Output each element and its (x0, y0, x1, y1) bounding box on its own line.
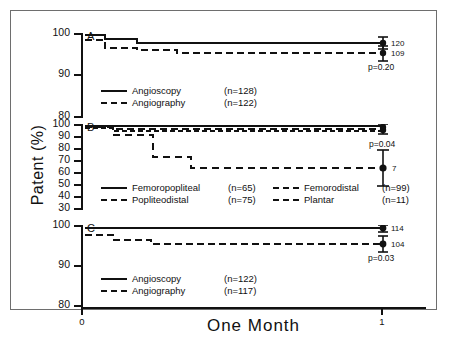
dashed-line-key-icon (101, 286, 127, 296)
panel-b-ytick-100: 100 (74, 124, 83, 126)
panel-c-ytick-label-100: 100 (52, 218, 70, 230)
dashed-line-key-icon (273, 183, 299, 193)
panel-a-legend-n-angiography: (n=122) (224, 97, 257, 109)
solid-line-key-icon (101, 86, 127, 96)
panel-b-ytick-label-80: 80 (58, 141, 70, 153)
panel-b-legend-n-popliteodistal: (n=75) (228, 194, 256, 206)
panel-a-legend-n-angioscopy: (n=128) (224, 85, 257, 97)
y-axis-title: Patent (%) (29, 105, 47, 225)
panel-a-legend-item-angioscopy: Angioscopy (n=128) (101, 85, 257, 97)
panel-b-legend-item-plantar: Plantar (n=11) (273, 194, 410, 206)
panel-a-series-angiography (85, 40, 383, 53)
panel-c-legend-name-angioscopy: Angioscopy (132, 273, 224, 285)
panel-b-ytick-30: 30 (74, 208, 83, 210)
panel-b-ytick-50: 50 (74, 184, 83, 186)
x-axis-title: One Month (81, 316, 426, 336)
panel-c-legend-name-angiography: Angiography (132, 285, 224, 297)
panel-b-ytick-label-60: 60 (58, 165, 70, 177)
panel-b-ytick-label-40: 40 (58, 189, 70, 201)
panel-c-legend-item-angioscopy: Angioscopy (n=122) (101, 273, 257, 285)
panel-c-legend-item-angiography: Angiography (n=117) (101, 285, 257, 297)
panel-c-ytick-100: 100 (74, 225, 83, 227)
panel-b-legend-name-popliteodistal: Popliteodistal (132, 194, 228, 206)
panel-a-ytick-label-90: 90 (58, 67, 70, 79)
dashed-line-key-icon (101, 98, 127, 108)
panel-b-endpoint-label-plantar: 7 (392, 164, 396, 173)
panel-b-legend-name-plantar: Plantar (304, 194, 382, 206)
panel-a-ytick-90: 90 (74, 74, 83, 76)
panel-a-legend-name-angioscopy: Angioscopy (132, 85, 224, 97)
x-tick-1 (381, 307, 383, 315)
panel-a-ytick-label-100: 100 (52, 26, 70, 38)
panel-c-legend-n-angioscopy: (n=122) (224, 273, 257, 285)
panel-b-legend-left: Femoropopliteal (n=65) Popliteodistal (n… (101, 182, 256, 206)
panel-b-ytick-label-50: 50 (58, 177, 70, 189)
panel-c-ytick-90: 90 (74, 265, 83, 267)
panel-b-legend-n-femoropopliteal: (n=65) (228, 182, 256, 194)
panel-b-ytick-60: 60 (74, 172, 83, 174)
panel-b-ytick-label-90: 90 (58, 129, 70, 141)
panel-c: C 100 90 80 (81, 225, 426, 307)
panel-c-ytick-label-80: 80 (58, 298, 70, 310)
panel-b-endpoint-plantar (377, 150, 389, 186)
panel-b-series-plantar (85, 127, 383, 168)
panel-b-legend-n-femorodistal: (n=99) (382, 182, 410, 194)
panel-b-legend-item-femoropopliteal: Femoropopliteal (n=65) (101, 182, 256, 194)
panel-b-ytick-80: 80 (74, 148, 83, 150)
panel-a-legend: Angioscopy (n=128) Angiography (n=122) (101, 85, 257, 109)
panel-b-ytick-40: 40 (74, 196, 83, 198)
panel-a-ytick-100: 100 (74, 33, 83, 35)
panel-b: B 100 90 80 70 60 50 40 (81, 124, 426, 209)
panel-b-legend-item-femorodistal: Femorodistal (n=99) (273, 182, 410, 194)
panel-a-legend-name-angiography: Angiography (132, 97, 224, 109)
panel-a-endpoint-label-angioscopy: 120 (391, 39, 404, 48)
x-tick-0 (81, 307, 83, 315)
panel-b-legend-name-femorodistal: Femorodistal (304, 182, 382, 194)
panel-b-legend-right: Femorodistal (n=99) Plantar (n=11) (273, 182, 410, 206)
panel-b-legend-name-femoropopliteal: Femoropopliteal (132, 182, 228, 194)
dashed-line-key-icon (101, 195, 127, 205)
panel-b-ytick-label-100: 100 (52, 117, 70, 129)
panel-c-ytick-label-90: 90 (58, 258, 70, 270)
panel-b-legend-item-popliteodistal: Popliteodistal (n=75) (101, 194, 256, 206)
panel-b-ytick-70: 70 (74, 160, 83, 162)
x-axis: 0 1 (81, 307, 426, 309)
solid-line-key-icon (101, 274, 127, 284)
panel-b-legend-n-plantar: (n=11) (382, 194, 409, 206)
kaplan-meier-patency-figure: Patent (%) A 100 90 80 (0, 0, 449, 347)
panel-b-ytick-90: 90 (74, 136, 83, 138)
panel-a-series-angioscopy (85, 35, 383, 43)
panel-a-endpoint-label-angiography: 109 (391, 49, 404, 58)
solid-line-key-icon (101, 183, 127, 193)
panel-c-series-angiography (85, 235, 383, 244)
panel-c-endpoint-label-angiography: 104 (391, 240, 404, 249)
panel-c-p-value: p=0.03 (368, 253, 394, 263)
panel-a-ytick-80: 80 (74, 116, 83, 118)
panel-c-legend: Angioscopy (n=122) Angiography (n=117) (101, 273, 257, 297)
panel-a-legend-item-angiography: Angiography (n=122) (101, 97, 257, 109)
panel-c-legend-n-angiography: (n=117) (224, 285, 256, 297)
panel-b-p-value: p=0.04 (369, 139, 395, 149)
panel-c-endpoint-label-angioscopy: 114 (391, 224, 404, 233)
panel-b-ytick-label-70: 70 (58, 153, 70, 165)
panel-a-p-value: p=0.20 (368, 62, 394, 72)
panel-b-ytick-label-30: 30 (58, 201, 70, 213)
dashed-line-key-icon (273, 195, 299, 205)
panel-a: A 100 90 80 (81, 33, 426, 118)
panel-b-series-popliteodistal (85, 127, 383, 129)
figure-border: Patent (%) A 100 90 80 (10, 10, 437, 310)
